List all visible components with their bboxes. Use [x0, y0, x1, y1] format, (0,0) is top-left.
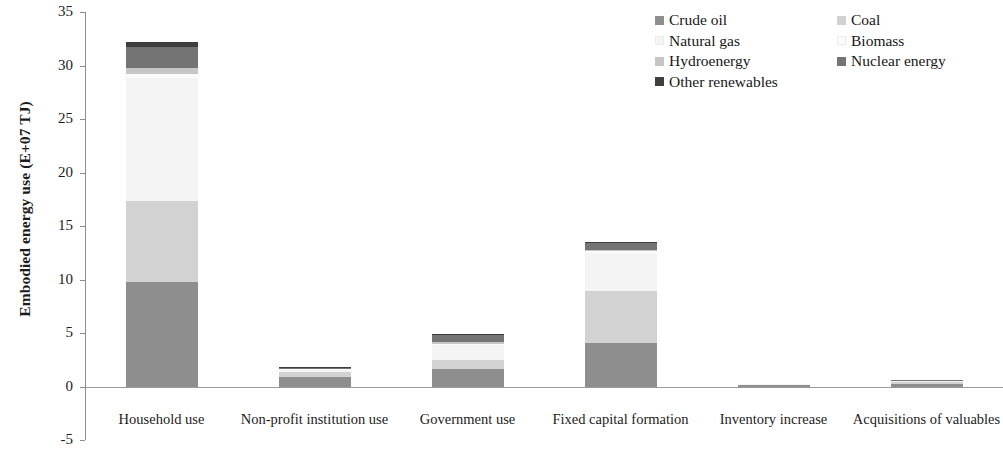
bar-segment[interactable]: [738, 385, 810, 387]
bar-group[interactable]: [87, 12, 237, 387]
y-tick-label: -5: [27, 431, 73, 448]
legend-swatch-icon: [837, 16, 846, 25]
x-axis-label: Household use: [87, 410, 237, 428]
legend-label: Natural gas: [669, 31, 740, 52]
bar-segment[interactable]: [126, 201, 198, 282]
legend-swatch-icon: [655, 16, 664, 25]
bar-segment[interactable]: [891, 384, 963, 387]
x-axis-label: Acquisitions of valuables: [852, 410, 1002, 428]
bar-segment[interactable]: [432, 335, 504, 342]
y-tick-label: 5: [27, 324, 73, 341]
legend-column-left: Crude oilNatural gasHydroenergyOther ren…: [655, 10, 830, 92]
bar-segment[interactable]: [585, 253, 657, 291]
legend-swatch-icon: [655, 77, 664, 86]
legend-label: Crude oil: [669, 10, 727, 31]
legend-label: Hydroenergy: [669, 51, 751, 72]
bar-segment[interactable]: [126, 47, 198, 68]
y-tick-mark: [80, 440, 85, 441]
bar-segment[interactable]: [432, 345, 504, 361]
stacked-bar-chart: Embodied energy use (E+07 TJ) 3530252015…: [0, 0, 1003, 455]
y-tick-label: 15: [27, 217, 73, 234]
x-axis-label: Inventory increase: [699, 410, 849, 428]
x-axis-label: Fixed capital formation: [546, 410, 696, 428]
legend-item[interactable]: Natural gas: [655, 31, 830, 52]
bar-segment[interactable]: [432, 369, 504, 387]
legend-swatch-icon: [655, 36, 664, 45]
y-tick-label: 25: [27, 110, 73, 127]
legend-item[interactable]: Hydroenergy: [655, 51, 830, 72]
legend-label: Biomass: [851, 31, 904, 52]
y-tick-label: 35: [27, 3, 73, 20]
bar-segment[interactable]: [585, 243, 657, 250]
bar-segment[interactable]: [126, 78, 198, 201]
bar-stack[interactable]: [126, 42, 198, 387]
legend-label: Coal: [851, 10, 880, 31]
legend-column-right: CoalBiomassNuclear energy: [837, 10, 1003, 72]
bar-segment[interactable]: [585, 291, 657, 343]
legend-swatch-icon: [837, 57, 846, 66]
bar-segment[interactable]: [585, 343, 657, 387]
legend-item[interactable]: Biomass: [837, 31, 1003, 52]
chart-legend: Crude oilNatural gasHydroenergyOther ren…: [655, 10, 1003, 102]
bar-stack[interactable]: [891, 380, 963, 387]
bar-segment[interactable]: [432, 360, 504, 369]
legend-label: Other renewables: [669, 72, 778, 93]
y-tick-label: 10: [27, 271, 73, 288]
legend-label: Nuclear energy: [851, 51, 946, 72]
bar-segment[interactable]: [279, 377, 351, 387]
legend-item[interactable]: Crude oil: [655, 10, 830, 31]
legend-swatch-icon: [837, 36, 846, 45]
bar-segment[interactable]: [126, 282, 198, 387]
y-tick-label: 0: [27, 378, 73, 395]
bar-stack[interactable]: [279, 367, 351, 387]
legend-item[interactable]: Other renewables: [655, 72, 830, 93]
legend-swatch-icon: [655, 57, 664, 66]
x-axis-label: Non-profit institution use: [240, 410, 390, 428]
bar-stack[interactable]: [738, 384, 810, 387]
y-tick-label: 20: [27, 164, 73, 181]
bar-stack[interactable]: [585, 242, 657, 387]
y-tick-label: 30: [27, 57, 73, 74]
bar-group[interactable]: [393, 12, 543, 387]
legend-item[interactable]: Coal: [837, 10, 1003, 31]
x-axis-label: Government use: [393, 410, 543, 428]
legend-item[interactable]: Nuclear energy: [837, 51, 1003, 72]
bar-stack[interactable]: [432, 334, 504, 387]
bar-group[interactable]: [240, 12, 390, 387]
